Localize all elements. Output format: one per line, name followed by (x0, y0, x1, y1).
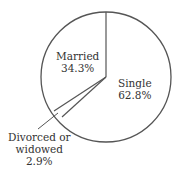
divorced-pct: 2.9% (8, 155, 71, 167)
married-pct: 34.3% (56, 62, 99, 74)
married-name: Married (56, 50, 99, 62)
single-pct: 62.8% (118, 89, 152, 101)
divorced-name-line2: widowed (8, 143, 71, 155)
divorced-name-line1: Divorced or (8, 131, 71, 143)
single-name: Single (118, 77, 152, 89)
married-label: Married 34.3% (56, 50, 99, 74)
leader-line (38, 113, 58, 129)
divorced-label: Divorced or widowed 2.9% (8, 131, 71, 167)
single-label: Single 62.8% (118, 77, 152, 101)
